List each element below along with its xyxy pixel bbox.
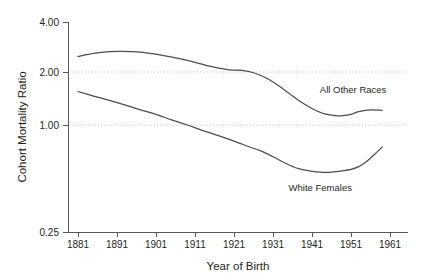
- x-tick-label-1941: 1941: [301, 239, 324, 250]
- chart-background: [0, 0, 424, 278]
- x-tick-label-1921: 1921: [223, 239, 246, 250]
- cohort-mortality-ratio-line-chart: 4.00 2.00 1.00 0.25 1881 1891 1901 1911 …: [0, 0, 424, 278]
- x-tick-label-1931: 1931: [262, 239, 285, 250]
- x-tick-label-1951: 1951: [340, 239, 363, 250]
- y-tick-label-0.25: 0.25: [40, 227, 60, 238]
- x-tick-label-1911: 1911: [184, 239, 206, 250]
- y-tick-label-1.00: 1.00: [40, 120, 60, 131]
- y-tick-label-2.00: 2.00: [40, 67, 60, 78]
- series-label-white-females: White Females: [289, 182, 353, 193]
- series-label-all-other-races: All Other Races: [320, 84, 387, 95]
- x-tick-label-1961: 1961: [379, 239, 402, 250]
- x-tick-label-1901: 1901: [145, 239, 168, 250]
- y-axis-title: Cohort Mortality Ratio: [16, 71, 28, 182]
- x-tick-label-1891: 1891: [106, 239, 129, 250]
- x-tick-label-1881: 1881: [67, 239, 90, 250]
- y-tick-label-4.00: 4.00: [40, 17, 60, 28]
- x-axis-tick-labels: 1881 1891 1901 1911 1921 1931 1941 1951 …: [67, 239, 402, 250]
- chart-container: 4.00 2.00 1.00 0.25 1881 1891 1901 1911 …: [0, 0, 424, 278]
- x-axis-title: Year of Birth: [207, 260, 270, 272]
